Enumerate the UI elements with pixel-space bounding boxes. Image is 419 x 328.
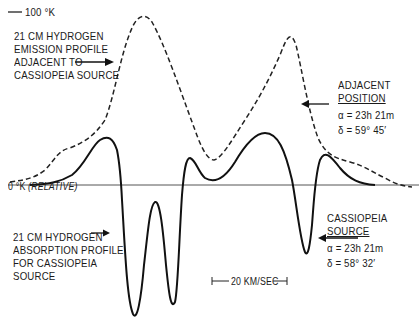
emission-line-3: ADJACENT TO [14,56,119,69]
source-alpha: α = 23h 21m [327,242,387,255]
absorption-line-4: SOURCE [13,270,124,283]
absorption-annotation: 21 CM HYDROGEN ABSORPTION PROFILE FOR CA… [13,231,124,283]
absorption-line-2: ABSORPTION PROFILE [13,244,124,257]
absorption-line-3: FOR CASSIOPEIA [13,257,124,270]
relative-note: (RELATIVE) [28,181,78,192]
absorption-line-1: 21 CM HYDROGEN [13,231,124,244]
adjacent-title-2: POSITION [338,92,394,105]
adjacent-alpha: α = 23h 21m [338,109,394,122]
zero-k-label: 0 °K [8,181,25,192]
velocity-scale-label: 20 KM/SEC [231,275,279,288]
source-delta: δ = 58° 32′ [327,257,387,270]
adjacent-arrow [301,100,329,108]
absorption-profile-curve [30,133,375,316]
emission-line-1: 21 CM HYDROGEN [14,30,119,43]
source-title-1: CASSIOPEIA [327,212,387,225]
emission-annotation: 21 CM HYDROGEN EMISSION PROFILE ADJACENT… [14,30,119,82]
adjacent-title-1: ADJACENT [338,79,394,92]
emission-line-2: EMISSION PROFILE [14,43,119,56]
adjacent-delta: δ = 59° 45′ [338,124,394,137]
adjacent-position-annotation: ADJACENT POSITION α = 23h 21m δ = 59° 45… [338,79,394,137]
source-title-2: SOURCE [327,225,387,238]
emission-line-4: CASSIOPEIA SOURCE [14,69,119,82]
cassiopeia-source-annotation: CASSIOPEIA SOURCE α = 23h 21m δ = 58° 32… [327,212,387,270]
scale-100k-label: 100 °K [25,6,55,19]
baseline-label: 0 °K (RELATIVE) [8,180,78,193]
